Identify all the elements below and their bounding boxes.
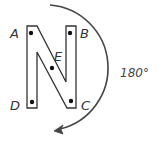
rotation-diagram: A B C D E 180° [0,0,163,146]
arrowhead-icon [54,125,63,134]
point-d [30,100,34,104]
label-e: E [54,49,63,64]
label-b: B [80,26,89,41]
label-c: C [81,98,91,113]
point-b [68,31,72,35]
label-a: A [9,26,19,41]
label-d: D [10,98,20,113]
point-a [29,31,33,35]
point-e [50,66,54,70]
point-c [69,99,73,103]
rotation-angle-label: 180° [120,66,149,80]
